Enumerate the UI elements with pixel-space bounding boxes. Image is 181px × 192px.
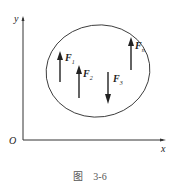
x-axis-label: x xyxy=(160,143,166,154)
force-label: F1 xyxy=(64,52,75,65)
origin-label: O xyxy=(9,135,16,146)
arrowhead-down-icon xyxy=(105,94,111,104)
force-label: Fn xyxy=(134,40,145,53)
x-axis-arrow-icon xyxy=(160,139,166,142)
force-fn: Fn xyxy=(128,37,145,70)
figure-canvas: y x O F1 F2 F3 Fn 图 3-6 xyxy=(0,0,181,192)
force-f3: F3 xyxy=(105,72,123,104)
arrowhead-up-icon xyxy=(128,37,134,46)
force-f2: F2 xyxy=(76,65,93,98)
y-axis-arrow-icon xyxy=(22,16,25,21)
y-axis-label: y xyxy=(13,13,19,24)
figure-caption: 图 3-6 xyxy=(73,171,106,182)
arrowhead-up-icon xyxy=(57,51,63,60)
rigid-body-outline xyxy=(40,18,156,124)
force-label: F3 xyxy=(112,73,123,86)
force-f1: F1 xyxy=(57,51,75,82)
arrowhead-up-icon xyxy=(76,65,82,74)
force-label: F2 xyxy=(82,68,93,81)
